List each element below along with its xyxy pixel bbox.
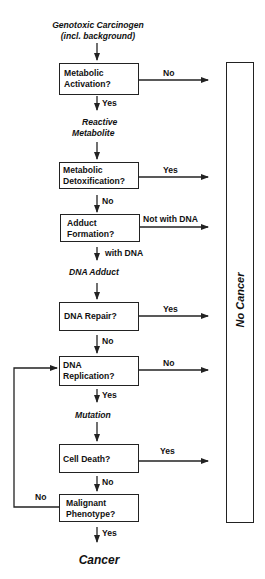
decision-label: DNA Repair? xyxy=(64,311,117,322)
continue-label-with-dna: with DNA xyxy=(105,248,143,259)
continue-label-no: No xyxy=(102,477,113,488)
exit-label-no: No xyxy=(163,358,174,369)
intermediate-reactive-metabolite: Reactive Metabolite xyxy=(72,117,117,138)
loop-label-no: No xyxy=(35,492,46,503)
outcome-cancer-label: Cancer xyxy=(79,553,120,567)
start-line1: Genotoxic Carcinogen xyxy=(48,20,148,31)
intermediate-line1: Reactive xyxy=(72,117,117,128)
continue-label-yes: Yes xyxy=(102,390,117,401)
exit-label-no: No xyxy=(163,68,174,79)
decision-label: Cell Death? xyxy=(63,454,110,465)
intermediate-mutation: Mutation xyxy=(75,410,111,421)
continue-label-yes: Yes xyxy=(102,98,117,109)
decision-label: Metabolic xyxy=(63,165,125,176)
decision-label: Malignant xyxy=(66,498,115,509)
start-line2: (incl. background) xyxy=(48,31,148,42)
continue-label-no: No xyxy=(102,196,113,207)
outcome-no-cancer-label: No Cancer xyxy=(234,272,246,327)
intermediate-dna-adduct: DNA Adduct xyxy=(69,267,119,278)
intermediate-line2: Metabolite xyxy=(72,128,117,139)
decision-label: DNA xyxy=(63,360,115,371)
decision-label: Detoxification? xyxy=(63,176,125,187)
exit-label-yes: Yes xyxy=(163,165,178,176)
decision-malignant-phenotype: Malignant Phenotype? xyxy=(59,494,139,522)
decision-label: Activation? xyxy=(64,79,111,90)
decision-label: Formation? xyxy=(67,229,114,240)
decision-label: Adduct xyxy=(67,218,114,229)
decision-cell-death: Cell Death? xyxy=(59,444,139,473)
exit-label-not-with-dna: Not with DNA xyxy=(143,214,198,225)
continue-label-no: No xyxy=(102,336,113,347)
decision-dna-replication: DNA Replication? xyxy=(59,356,139,386)
continue-label-yes: Yes xyxy=(102,528,117,539)
decision-metabolic-detoxification: Metabolic Detoxification? xyxy=(59,162,139,189)
exit-label-yes: Yes xyxy=(160,446,175,457)
decision-label: Metabolic xyxy=(64,68,111,79)
exit-label-yes: Yes xyxy=(163,304,178,315)
decision-adduct-formation: Adduct Formation? xyxy=(60,214,140,242)
decision-label: Replication? xyxy=(63,371,115,382)
decision-dna-repair: DNA Repair? xyxy=(59,302,139,331)
start-node-genotoxic-carcinogen: Genotoxic Carcinogen (incl. background) xyxy=(48,20,148,41)
decision-label: Phenotype? xyxy=(66,509,115,520)
decision-metabolic-activation: Metabolic Activation? xyxy=(59,63,139,95)
